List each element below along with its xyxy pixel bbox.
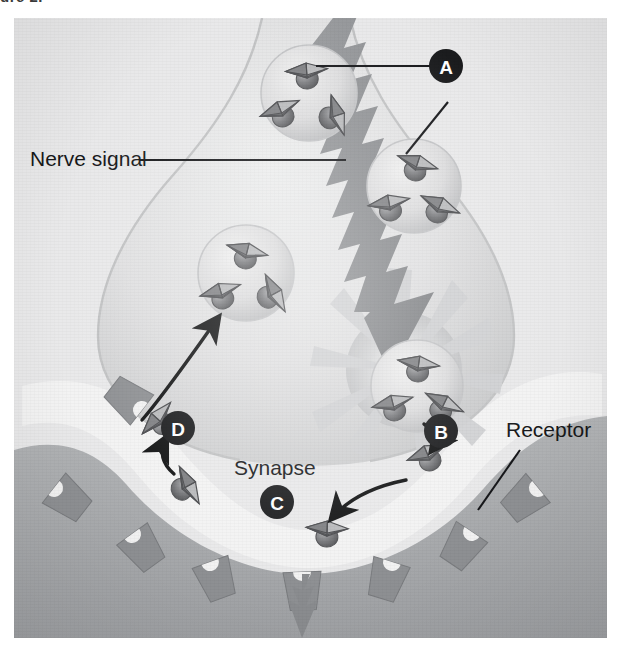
vesicle[interactable] xyxy=(367,139,462,233)
figure-root: ure 2. xyxy=(0,0,621,648)
marker-a[interactable]: A xyxy=(429,49,463,83)
label-synapse: Synapse xyxy=(234,456,316,479)
marker-d[interactable]: D xyxy=(161,411,195,445)
vesicle[interactable] xyxy=(198,225,294,321)
synapse-illustration: Nerve signal Synapse Receptor A B C D xyxy=(14,18,607,638)
illustration-panel: Nerve signal Synapse Receptor A B C D xyxy=(14,18,607,638)
marker-b-letter: B xyxy=(434,422,448,443)
marker-a-letter: A xyxy=(439,57,453,78)
label-nerve-signal: Nerve signal xyxy=(30,147,147,170)
label-receptor: Receptor xyxy=(506,418,591,441)
marker-c[interactable]: C xyxy=(260,485,294,519)
figure-caption-sliver: ure 2. xyxy=(0,0,160,6)
marker-b[interactable]: B xyxy=(424,414,458,448)
marker-d-letter: D xyxy=(171,419,185,440)
marker-c-letter: C xyxy=(270,493,284,514)
